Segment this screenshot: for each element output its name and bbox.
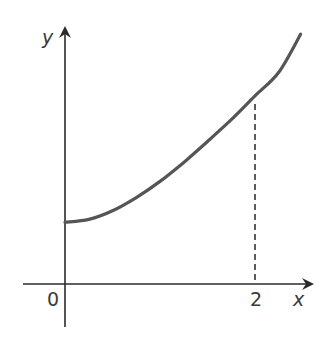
function-curve — [65, 34, 301, 222]
x-tick-label-2: 2 — [250, 288, 262, 310]
chart-canvas: y x 0 2 — [0, 0, 325, 350]
origin-label: 0 — [47, 288, 59, 310]
y-axis-label: y — [41, 26, 54, 48]
x-axis-label: x — [292, 288, 305, 310]
